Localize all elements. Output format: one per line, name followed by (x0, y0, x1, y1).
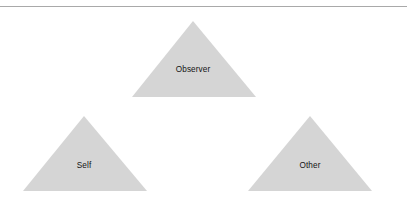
triangle-label-observer: Observer (176, 66, 210, 74)
triangle-label-other: Other (300, 162, 321, 170)
triangle-label-self: Self (77, 162, 92, 170)
self-other-observer-diagram: Observer Self Other (0, 0, 414, 204)
diagram-canvas (0, 0, 414, 204)
